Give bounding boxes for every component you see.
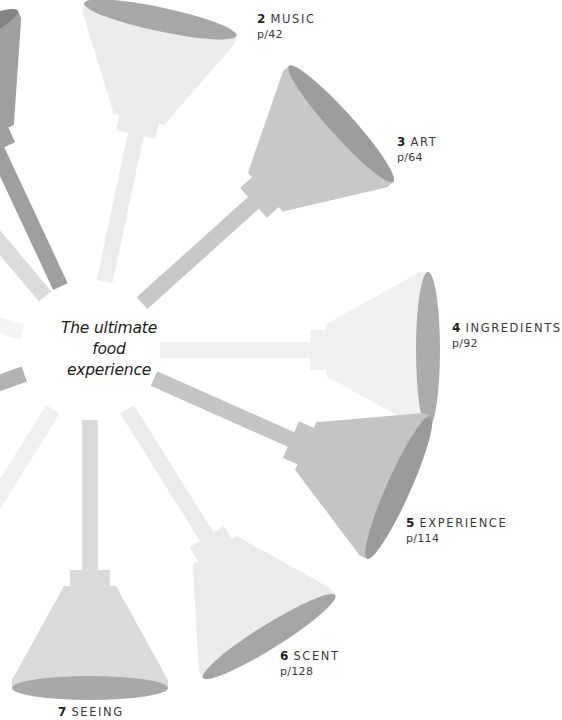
chapter-number: 6 bbox=[280, 649, 288, 663]
chapter-page: p/64 bbox=[397, 150, 437, 165]
chapter-label-seeing[interactable]: 7 SEEING bbox=[58, 703, 124, 720]
chapter-number: 2 bbox=[257, 12, 265, 26]
chapter-number: 3 bbox=[397, 135, 405, 149]
chapter-label-experience[interactable]: 5 EXPERIENCE p/114 bbox=[406, 514, 507, 546]
chapter-label-music[interactable]: 2 MUSIC p/42 bbox=[257, 10, 316, 42]
funnel-icon bbox=[12, 420, 168, 700]
chapter-number: 4 bbox=[452, 321, 460, 335]
chapter-label-ingredients[interactable]: 4 INGREDIENTS p/92 bbox=[452, 319, 562, 351]
chapter-page: p/42 bbox=[257, 27, 316, 42]
chapter-page: p/92 bbox=[452, 336, 562, 351]
chapter-name: EXPERIENCE bbox=[419, 516, 507, 530]
chapter-name: SCENT bbox=[293, 649, 339, 663]
chapter-number: 5 bbox=[406, 516, 414, 530]
chapter-label-scent[interactable]: 6 SCENT p/128 bbox=[280, 647, 340, 679]
center-title-line-2: food bbox=[54, 339, 164, 360]
chapter-page: p/128 bbox=[280, 664, 340, 679]
chapter-label-art[interactable]: 3 ART p/64 bbox=[397, 133, 437, 165]
center-title-line-3: experience bbox=[54, 360, 164, 381]
chapter-number: 7 bbox=[58, 705, 66, 719]
center-title-line-1: The ultimate bbox=[54, 318, 164, 339]
chapter-page: p/114 bbox=[406, 531, 507, 546]
center-title: The ultimate food experience bbox=[54, 318, 164, 381]
chapter-name: SEEING bbox=[71, 705, 123, 719]
chapter-name: MUSIC bbox=[270, 12, 315, 26]
chapter-name: ART bbox=[410, 135, 437, 149]
chapter-name: INGREDIENTS bbox=[465, 321, 561, 335]
